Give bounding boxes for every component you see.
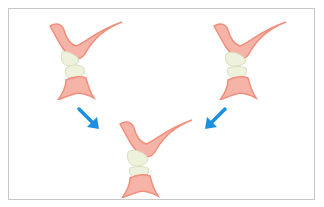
occlusion-illustration-icon bbox=[210, 14, 290, 100]
occlusion-illustration-icon bbox=[46, 14, 126, 100]
tooth-occlusion-figure-right bbox=[210, 14, 290, 100]
arrow-down-right-icon bbox=[76, 106, 102, 132]
occlusion-illustration-icon bbox=[116, 112, 196, 198]
tooth-occlusion-figure-result bbox=[116, 112, 196, 198]
tooth-occlusion-figure-left bbox=[46, 14, 126, 100]
arrow-down-left-icon bbox=[202, 106, 228, 132]
